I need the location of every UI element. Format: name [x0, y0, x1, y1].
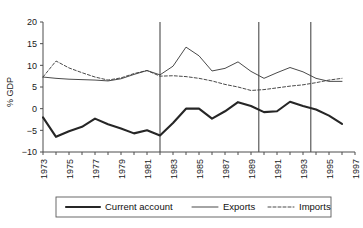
chart-container: −10−505101520 19731975197719791981198319…: [0, 0, 363, 228]
legend-label-current-account: Current account: [105, 201, 173, 212]
y-axis-tick-label: 0: [32, 104, 37, 114]
x-axis-tick-label: 1983: [169, 159, 179, 179]
y-axis-tick-label: −10: [22, 147, 37, 157]
y-axis-title: % GDP: [5, 77, 15, 107]
legend-label-imports: Imports: [299, 201, 331, 212]
legend-label-exports: Exports: [223, 201, 255, 212]
x-axis-tick-label: 1995: [325, 159, 335, 179]
y-axis-tick-label: 15: [27, 39, 37, 49]
x-axis-tick-label: 1981: [143, 159, 153, 179]
x-axis-tick-label: 1993: [299, 159, 309, 179]
x-axis-tick-label: 1991: [273, 159, 283, 179]
x-axis-tick-label: 1987: [221, 159, 231, 179]
x-axis-tick-label: 1985: [195, 159, 205, 179]
x-axis-tick-label: 1997: [351, 159, 361, 179]
x-axis-tick-label: 1973: [39, 159, 49, 179]
x-axis-tick-label: 1989: [247, 159, 257, 179]
y-axis-tick-label: 20: [27, 17, 37, 27]
x-axis-tick-label: 1979: [117, 159, 127, 179]
chart-legend: Current accountExportsImports: [56, 197, 331, 217]
y-axis-tick-label: 10: [27, 61, 37, 71]
y-axis-tick-label: −5: [27, 126, 37, 136]
line-chart: −10−505101520 19731975197719791981198319…: [0, 0, 363, 228]
y-axis-tick-label: 5: [32, 82, 37, 92]
x-axis-tick-label: 1975: [65, 159, 75, 179]
x-axis-tick-label: 1977: [91, 159, 101, 179]
